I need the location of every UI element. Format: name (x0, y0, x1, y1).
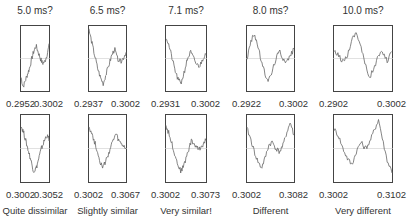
waveform-panel-top (20, 25, 50, 92)
x-tick-left: 0.2931 (151, 98, 180, 109)
x-tick-left: 0.3002 (6, 189, 35, 200)
x-tick-right: 0.3002 (111, 98, 140, 109)
panel-title: 8.0 ms? (231, 5, 311, 16)
x-tick-right: 0.3052 (34, 189, 63, 200)
waveform-panel-bottom (246, 114, 295, 183)
verdict-label: Different (221, 205, 321, 216)
x-tick-right: 0.3073 (191, 189, 220, 200)
waveform-panel-top (88, 25, 127, 92)
x-tick-right: 0.3002 (34, 98, 63, 109)
x-tick-left: 0.3002 (232, 189, 261, 200)
waveform-panel-top (333, 25, 393, 92)
x-tick-left: 0.2922 (232, 98, 261, 109)
x-tick-left: 0.3002 (151, 189, 180, 200)
x-tick-right: 0.3102 (377, 189, 406, 200)
waveform-panel-top (165, 25, 207, 92)
panel-title: 10.0 ms? (323, 5, 403, 16)
x-tick-left: 0.2902 (319, 98, 348, 109)
waveform-panel-bottom (20, 114, 50, 183)
waveform-panel-bottom (88, 114, 127, 183)
panel-title: 6.5 ms? (68, 5, 148, 16)
verdict-label: Very different (313, 205, 413, 216)
x-tick-right: 0.3067 (111, 189, 140, 200)
x-tick-right: 0.3002 (377, 98, 406, 109)
waveform-panel-top (246, 25, 295, 92)
x-tick-left: 0.2952 (6, 98, 35, 109)
waveform-panel-bottom (333, 114, 393, 183)
x-tick-left: 0.2937 (74, 98, 103, 109)
x-tick-left: 0.3002 (319, 189, 348, 200)
waveform-panel-bottom (165, 114, 207, 183)
panel-title: 7.1 ms? (146, 5, 226, 16)
panel-title: 5.0 ms? (0, 5, 75, 16)
x-tick-right: 0.3002 (279, 98, 308, 109)
x-tick-right: 0.3002 (191, 98, 220, 109)
x-tick-right: 0.3082 (279, 189, 308, 200)
x-tick-left: 0.3002 (74, 189, 103, 200)
